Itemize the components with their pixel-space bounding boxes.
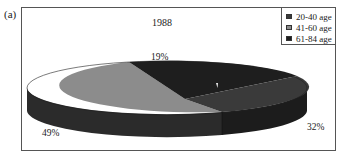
legend: 20-40 age 41-60 age 61-84 age [281,7,336,45]
legend-swatch-icon [286,14,292,19]
chart-title: 1988 [152,17,172,28]
legend-item-41-60: 41-60 age [286,22,335,33]
legend-item-61-84: 61-84 age [286,33,335,44]
legend-label: 41-60 age [296,23,332,33]
legend-swatch-icon [286,25,292,30]
label-61-84: 19% [151,52,168,62]
legend-label: 61-84 age [296,34,332,44]
label-41-60: 49% [42,128,59,138]
legend-item-20-40: 20-40 age [286,11,335,22]
legend-swatch-icon [286,36,292,41]
legend-label: 20-40 age [296,12,332,22]
label-20-40: 32% [307,122,324,132]
